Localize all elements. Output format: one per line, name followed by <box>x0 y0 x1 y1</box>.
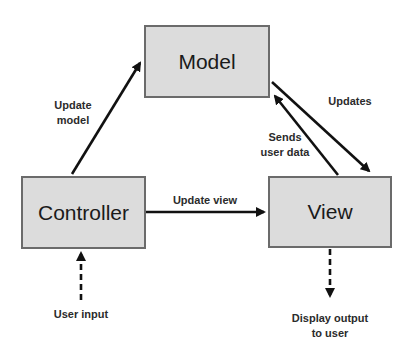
update-model-label-line1: Update <box>48 98 98 113</box>
sends-user-data-label: Sends user data <box>256 130 314 160</box>
updates-label-text: Updates <box>322 94 378 109</box>
model-box: Model <box>144 25 270 98</box>
display-output-label: Display output to user <box>290 311 370 341</box>
user-input-label: User input <box>46 307 116 322</box>
update-model-label-line2: model <box>48 113 98 128</box>
update-model-label: Update model <box>48 98 98 128</box>
display-output-label-line1: Display output <box>290 311 370 326</box>
sends-user-data-label-line1: Sends <box>256 130 314 145</box>
sends-user-data-label-line2: user data <box>256 145 314 160</box>
updates-label: Updates <box>322 94 378 109</box>
model-label: Model <box>178 50 235 74</box>
view-label: View <box>307 200 352 224</box>
user-input-label-text: User input <box>46 307 116 322</box>
view-box: View <box>268 176 392 248</box>
update-view-label-text: Update view <box>160 193 250 208</box>
controller-box: Controller <box>21 176 146 249</box>
update-view-label: Update view <box>160 193 250 208</box>
display-output-label-line2: to user <box>290 326 370 341</box>
controller-label: Controller <box>38 201 129 225</box>
mvc-diagram: Model Controller View Update model Updat… <box>0 0 411 356</box>
